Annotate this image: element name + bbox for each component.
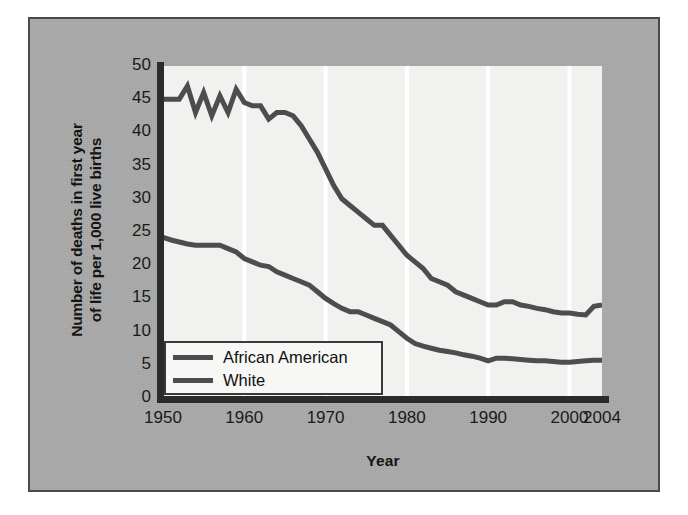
- legend-label-white: White: [223, 372, 265, 389]
- y-tick-label-10: 10: [117, 321, 151, 341]
- y-tick-label-20: 20: [117, 254, 151, 274]
- legend-label-african-american: African American: [223, 349, 348, 366]
- series-line-african-american: [163, 86, 602, 315]
- figure-root: Number of deaths in first year of life p…: [0, 0, 688, 515]
- y-tick-label-5: 5: [117, 354, 151, 374]
- x-tick-label-1980: 1980: [382, 408, 432, 428]
- y-axis-line: [157, 62, 164, 402]
- y-tick-label-40: 40: [117, 121, 151, 141]
- chart-legend: African American White: [164, 341, 383, 395]
- legend-swatch-white: [173, 378, 213, 383]
- x-tick-label-1950: 1950: [138, 408, 188, 428]
- x-tick-label-1990: 1990: [463, 408, 513, 428]
- y-axis-title-line2: of life per 1,000 live births: [86, 138, 105, 323]
- x-axis-line: [157, 396, 609, 403]
- y-tick-label-30: 30: [117, 188, 151, 208]
- series-group: [163, 86, 602, 362]
- x-axis-title: Year: [163, 452, 603, 470]
- legend-item-african-american: African American: [173, 346, 375, 369]
- y-axis-title-line1: Number of deaths in first year: [67, 123, 86, 337]
- y-axis-title: Number of deaths in first year of life p…: [64, 60, 108, 400]
- y-tick-label-15: 15: [117, 287, 151, 307]
- y-tick-label-50: 50: [117, 55, 151, 75]
- y-tick-label-0: 0: [117, 387, 151, 407]
- y-tick-label-35: 35: [117, 155, 151, 175]
- x-tick-label-2004: 2004: [577, 408, 627, 428]
- y-tick-label-25: 25: [117, 221, 151, 241]
- legend-swatch-african-american: [173, 355, 213, 360]
- x-tick-label-1960: 1960: [219, 408, 269, 428]
- legend-item-white: White: [173, 369, 375, 392]
- y-tick-label-45: 45: [117, 88, 151, 108]
- x-tick-label-1970: 1970: [301, 408, 351, 428]
